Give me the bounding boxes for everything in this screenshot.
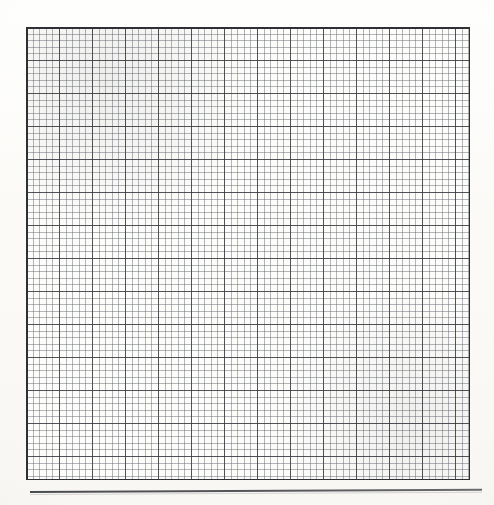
grid-lines [26, 27, 470, 480]
graph-grid [26, 27, 470, 480]
graph-paper-page [0, 0, 494, 505]
footer-horizontal-rule [30, 489, 482, 493]
